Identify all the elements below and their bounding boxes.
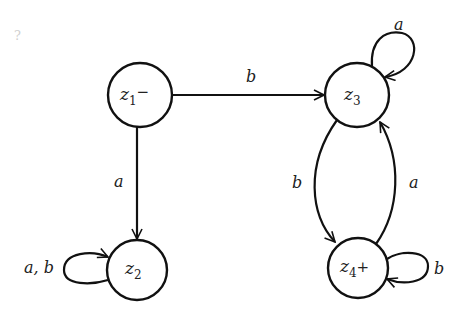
edge-z4-loop: b [387, 253, 444, 282]
automaton-diagram: ? b a a b a a, b b z1− z3 [0, 0, 467, 314]
state-z2: z2 [107, 240, 167, 300]
edge-z3-z4: b [292, 120, 337, 242]
edge-label-z1-z3: b [246, 67, 256, 86]
edge-z1-z2: a [114, 127, 137, 239]
state-z1-index: 1 [129, 94, 137, 108]
edge-label-z4-z3: a [409, 173, 419, 192]
edge-label-z3-loop: a [394, 15, 404, 34]
edge-label-z3-z4: b [292, 173, 302, 192]
edge-z2-loop: a, b [24, 253, 108, 283]
state-z4: z4+ [328, 238, 388, 298]
state-z2-index: 2 [134, 268, 142, 282]
stray-mark: ? [14, 28, 21, 43]
state-z3-index: 3 [353, 94, 361, 108]
edge-label-z2-loop: a, b [24, 258, 54, 277]
state-z3: z3 [325, 63, 389, 127]
state-z1-start-marker: − [137, 83, 150, 101]
edge-z4-z3: a [376, 122, 419, 244]
edge-z1-z3: b [172, 67, 324, 95]
state-z4-accept-marker: + [357, 258, 370, 276]
state-z1: z1− [108, 63, 172, 127]
edge-label-z4-loop: b [434, 259, 444, 278]
edge-label-z1-z2: a [114, 172, 124, 191]
edge-z3-loop: a [372, 15, 414, 77]
